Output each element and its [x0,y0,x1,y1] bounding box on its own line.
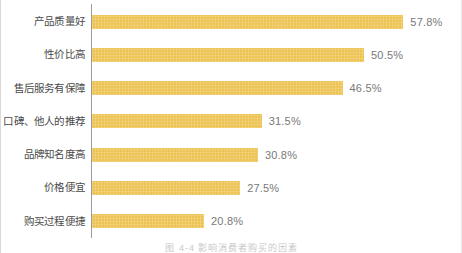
value-label-6: 20.8% [211,215,243,227]
category-label-5: 价格便宜 [1,181,85,194]
category-label-4: 品牌知名度高 [1,148,85,161]
bar-row: 品牌知名度高 30.8% [1,138,462,171]
value-label-3: 31.5% [269,115,301,127]
value-label-4: 30.8% [265,149,297,161]
bar-track-1: 50.5% [92,48,462,62]
bar-row: 产品质量好 57.8% [1,5,462,38]
bar-row: 性价比高 50.5% [1,38,462,71]
category-label-0: 产品质量好 [1,15,85,28]
bar-track-5: 27.5% [92,181,462,195]
bar-3 [92,114,262,128]
value-label-1: 50.5% [371,49,403,61]
bar-row: 售后服务有保障 46.5% [1,72,462,105]
category-label-6: 购买过程便捷 [1,215,85,228]
bar-track-6: 20.8% [92,214,462,228]
bar-row: 购买过程便捷 20.8% [1,205,462,238]
bar-track-4: 30.8% [92,148,462,162]
bar-track-3: 31.5% [92,114,462,128]
bar-track-0: 57.8% [92,15,462,29]
bar-rows: 产品质量好 57.8% 性价比高 50.5% 售后服务有保障 46.5% [1,5,462,238]
bar-2 [92,81,343,95]
bar-track-2: 46.5% [92,81,462,95]
bar-row: 口碑、他人的推荐 31.5% [1,105,462,138]
value-label-0: 57.8% [410,16,442,28]
value-label-5: 27.5% [247,182,279,194]
bar-1 [92,48,364,62]
bar-4 [92,148,258,162]
figure-caption: 图 4-4 影响消费者购买的因素 [1,243,462,253]
category-label-2: 售后服务有保障 [1,82,85,95]
figure-container: 产品质量好 57.8% 性价比高 50.5% 售后服务有保障 46.5% [0,0,462,253]
bar-row: 价格便宜 27.5% [1,171,462,204]
category-label-3: 口碑、他人的推荐 [1,115,85,128]
category-label-1: 性价比高 [1,48,85,61]
bar-0 [92,15,403,29]
bar-6 [92,214,204,228]
chart-plot-area: 产品质量好 57.8% 性价比高 50.5% 售后服务有保障 46.5% [1,0,462,240]
value-label-2: 46.5% [350,82,382,94]
bar-5 [92,181,240,195]
